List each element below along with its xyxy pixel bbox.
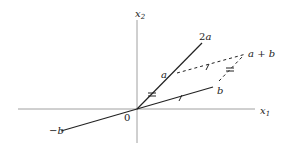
- label-neg-b: −b: [49, 125, 64, 136]
- label-origin: 0: [124, 112, 130, 123]
- label-a-plus-b: a + b: [248, 48, 275, 59]
- label-2a: 2a: [199, 31, 211, 42]
- label-x1: x1: [260, 105, 270, 118]
- vector-diagram: x2 x1 0 2a a b −b a + b: [0, 0, 288, 150]
- tick-double-dashed: [226, 68, 234, 71]
- label-a: a: [161, 69, 167, 80]
- label-b: b: [217, 85, 223, 96]
- label-x2: x2: [135, 8, 146, 21]
